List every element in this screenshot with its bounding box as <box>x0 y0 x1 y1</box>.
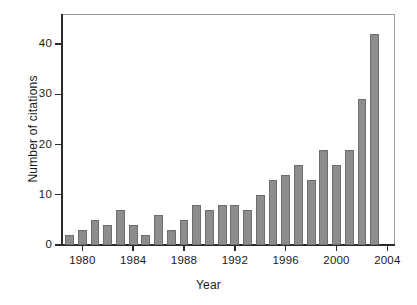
bar <box>205 210 214 245</box>
bar <box>332 165 341 245</box>
x-tick <box>82 245 83 251</box>
bar <box>370 34 379 245</box>
x-tick <box>183 245 184 251</box>
bar <box>269 180 278 245</box>
y-tick-label: 0 <box>20 239 52 251</box>
x-tick <box>336 245 337 251</box>
x-tick <box>285 245 286 251</box>
bar <box>91 220 100 245</box>
bar-series <box>62 14 395 245</box>
x-tick <box>234 245 235 251</box>
bar <box>129 225 138 245</box>
y-tick <box>55 94 62 95</box>
y-tick <box>55 244 62 245</box>
y-tick <box>55 43 62 44</box>
bar <box>319 150 328 245</box>
bar <box>167 230 176 245</box>
bar <box>141 235 150 245</box>
bar <box>103 225 112 245</box>
bar <box>294 165 303 245</box>
x-tick <box>387 245 388 251</box>
bar <box>180 220 189 245</box>
bar <box>218 205 227 245</box>
y-tick <box>55 194 62 195</box>
y-tick <box>55 144 62 145</box>
x-tick-label: 2004 <box>365 254 409 266</box>
bar <box>256 195 265 245</box>
x-tick-label: 1984 <box>111 254 155 266</box>
bar <box>192 205 201 245</box>
x-tick-label: 1988 <box>162 254 206 266</box>
bar <box>243 210 252 245</box>
x-tick-label: 1992 <box>213 254 257 266</box>
x-tick-label: 1980 <box>60 254 104 266</box>
citations-bar-chart: 010203040 1980198419881992199620002004 Y… <box>0 0 417 305</box>
bar <box>358 99 367 245</box>
bar <box>65 235 74 245</box>
bar <box>116 210 125 245</box>
x-tick <box>132 245 133 251</box>
x-tick-label: 2000 <box>315 254 359 266</box>
bar <box>345 150 354 245</box>
bar <box>281 175 290 245</box>
bar <box>307 180 316 245</box>
bar <box>78 230 87 245</box>
y-axis-title: Number of citations <box>26 34 40 224</box>
x-axis-title: Year <box>0 278 417 292</box>
x-tick-label: 1996 <box>264 254 308 266</box>
bar <box>154 215 163 245</box>
bar <box>230 205 239 245</box>
